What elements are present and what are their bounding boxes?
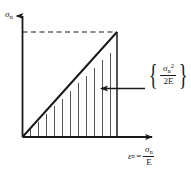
strain-energy-annotation: { σn2 2E } [146, 62, 191, 87]
stress-strain-energy-figure: σn εn = σn E { σn2 2E } [0, 0, 191, 175]
annotation-numerator-superscript: 2 [171, 62, 174, 69]
y-axis-label: σn [5, 10, 13, 20]
annotation-denominator: 2E [162, 76, 175, 86]
x-axis-label: εn = σn E [128, 145, 154, 167]
annotation-fraction: σn2 2E [160, 63, 176, 86]
x-axis-fraction-numerator: σn [144, 145, 155, 156]
figure-canvas [0, 0, 191, 175]
x-axis-fraction: σn E [143, 145, 154, 167]
x-axis-fraction-denominator: E [145, 157, 154, 167]
x-axis-numerator-subscript: n [149, 148, 152, 155]
left-curly-brace: { [149, 62, 158, 87]
hatch-fill [30, 53, 110, 137]
x-axis-subscript: n [132, 153, 135, 160]
y-axis-subscript: n [9, 13, 12, 20]
x-axis-equals: = [136, 152, 141, 161]
right-curly-brace: } [179, 62, 188, 87]
annotation-numerator: σn2 [161, 63, 175, 75]
